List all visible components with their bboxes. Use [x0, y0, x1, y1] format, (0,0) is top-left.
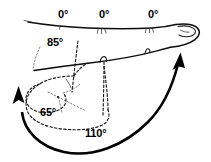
pip-axis-guide: [103, 62, 104, 115]
label-mcp-extension: 0°: [58, 9, 68, 20]
label-pip-extension: 0°: [99, 9, 109, 20]
flexed-crease-tick: [66, 79, 71, 88]
pip-dorsal-wrinkles: [97, 29, 106, 33]
flexed-distal-link: [104, 66, 108, 110]
label-mcp-flexion: 85°: [47, 37, 63, 48]
finger-dorsal-edge: [28, 22, 176, 29]
mcp-proximal-guide: [33, 47, 40, 70]
mcp-axis-guide: [72, 41, 78, 92]
fingertip-fill: [168, 24, 199, 47]
extension-arrow-head: [173, 53, 186, 71]
angle-guide-lines: [33, 41, 104, 115]
finger-rom-figure: 0° 0° 0° 85° 65° 110°: [0, 0, 211, 162]
dip-dorsal-wrinkles: [145, 29, 153, 33]
flexion-arrow-head: [13, 86, 25, 104]
label-dip-extension: 0°: [148, 9, 158, 20]
label-dip-flexion: 65°: [40, 107, 56, 118]
label-pip-flexion: 110°: [85, 128, 106, 139]
dip-axis-point: [57, 96, 59, 98]
dip-guide-c: [58, 97, 86, 111]
flexed-finger-outline: [26, 63, 109, 130]
